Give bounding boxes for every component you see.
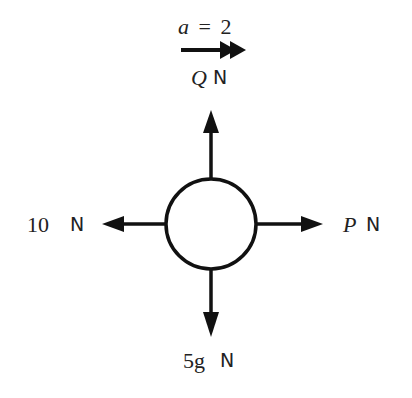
arrow-down-icon xyxy=(203,270,219,337)
acceleration-arrow-icon xyxy=(181,41,246,59)
body-circle xyxy=(166,179,256,269)
arrow-up-icon xyxy=(203,110,219,178)
svg-text:a = 2: a = 2 xyxy=(178,14,231,39)
force-label-down-unit: N xyxy=(220,349,234,371)
force-label-left-symbol: 10 xyxy=(27,212,49,237)
force-label-right-symbol: P xyxy=(342,212,356,237)
acceleration-equals: = xyxy=(199,14,211,39)
acceleration-value: 2 xyxy=(220,14,231,39)
arrow-left-icon xyxy=(102,216,166,232)
arrow-right-icon xyxy=(256,216,323,232)
force-label-up-symbol: Q xyxy=(191,65,207,90)
force-label-left-unit: N xyxy=(70,213,84,235)
force-label-right-unit: N xyxy=(366,213,380,235)
force-label-up-unit: N xyxy=(213,66,227,88)
force-diagram: a = 2 Q N P N 10 N 5g N xyxy=(0,0,412,398)
acceleration-symbol: a xyxy=(178,14,189,39)
force-label-down: 5g xyxy=(183,348,205,373)
acceleration-label: a = 2 xyxy=(178,14,231,39)
force-label-down-symbol: 5g xyxy=(183,348,205,373)
